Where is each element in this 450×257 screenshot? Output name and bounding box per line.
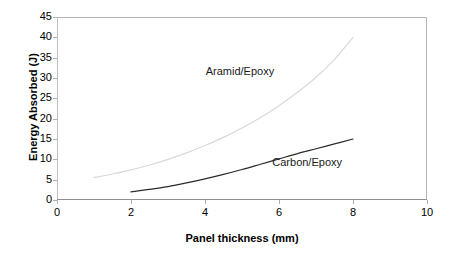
x-axis-tick-mark <box>279 200 280 204</box>
x-axis-tick-mark <box>353 200 354 204</box>
series-label-aramid-epoxy: Aramid/Epoxy <box>206 65 274 77</box>
series-label-carbon-epoxy: Carbon/Epoxy <box>272 156 342 168</box>
y-axis-tick-mark <box>53 180 57 181</box>
x-axis-tick-label: 10 <box>412 207 442 218</box>
x-axis-tick-label: 0 <box>42 207 72 218</box>
y-axis-tick-mark <box>53 98 57 99</box>
y-axis-tick-mark <box>53 159 57 160</box>
y-axis-tick-mark <box>53 139 57 140</box>
y-axis-tick-mark <box>53 78 57 79</box>
plot-area <box>57 17 427 200</box>
x-axis-tick-label: 8 <box>338 207 368 218</box>
x-axis-tick-mark <box>427 200 428 204</box>
x-axis-tick-label: 6 <box>264 207 294 218</box>
x-axis-tick-label: 4 <box>190 207 220 218</box>
chart-container: 051015202530354045 Aramid/Epoxy Carbon/E… <box>0 0 450 257</box>
x-axis-title: Panel thickness (mm) <box>57 232 427 244</box>
x-axis-tick-mark <box>131 200 132 204</box>
y-axis-tick-mark <box>53 17 57 18</box>
x-axis-line <box>57 199 427 200</box>
x-axis-tick-label: 2 <box>116 207 146 218</box>
y-axis-tick-mark <box>53 119 57 120</box>
y-axis-tick-mark <box>53 58 57 59</box>
x-axis-tick-mark <box>57 200 58 204</box>
y-axis-tick-mark <box>53 37 57 38</box>
x-axis-tick-mark <box>205 200 206 204</box>
y-axis-title: Energy Absorbed (J) <box>27 17 39 197</box>
